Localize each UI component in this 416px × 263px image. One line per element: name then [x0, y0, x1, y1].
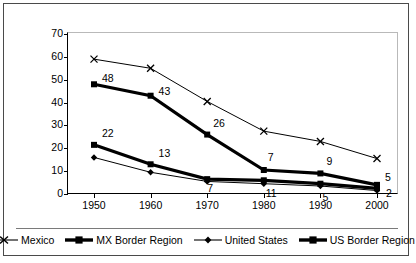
x-axis-tick-mark [377, 194, 378, 198]
legend-label: Mexico [21, 234, 64, 246]
y-axis-tick-mark [64, 34, 68, 35]
series-lines [68, 33, 399, 195]
x-axis-tick-mark [320, 194, 321, 198]
x-axis-tick-label: 1950 [64, 199, 124, 211]
x-axis-tick-label: 1970 [177, 199, 237, 211]
data-point-marker [317, 170, 323, 176]
data-point-marker [261, 177, 267, 183]
data-point-label: 5 [385, 171, 391, 183]
y-axis-tick-label: 30 [37, 118, 63, 130]
data-point-label: 5 [322, 191, 328, 203]
y-axis-tick-mark [64, 103, 68, 104]
x-axis-tick-label: 1960 [121, 199, 181, 211]
data-point-marker [91, 154, 97, 160]
y-axis-tick-mark [64, 80, 68, 81]
y-axis-tick-mark [64, 57, 68, 58]
y-axis-tick-label: 70 [37, 27, 63, 39]
legend-item-mx-border-region[interactable]: MX Border Region [64, 234, 192, 246]
x-axis-tick-mark [207, 194, 208, 198]
legend-item-mexico[interactable]: Mexico [0, 234, 64, 246]
data-point-marker [91, 142, 97, 148]
series-line-mexico [94, 59, 377, 158]
series-line-mx-border-region [94, 84, 377, 185]
y-axis-tick-label: 50 [37, 73, 63, 85]
data-point-label: 7 [207, 182, 213, 194]
legend-label: United States [225, 234, 298, 246]
plot-area: 010203040506070 195019601970198019902000… [67, 32, 398, 194]
data-point-label: 13 [159, 147, 171, 159]
x-axis-tick-label: 1990 [290, 199, 350, 211]
data-point-marker [261, 167, 267, 173]
square-marker [64, 234, 94, 246]
y-axis-tick-mark [64, 194, 68, 195]
x-axis-tick-mark [94, 194, 95, 198]
y-axis-tick-label: 40 [37, 96, 63, 108]
data-point-label: 22 [102, 127, 114, 139]
x-axis-tick-mark [264, 194, 265, 198]
data-point-marker [148, 93, 154, 99]
data-point-label: 7 [268, 151, 274, 163]
data-point-marker [204, 132, 210, 138]
legend-item-united-states[interactable]: United States [193, 234, 298, 246]
x-marker [0, 234, 19, 246]
x-axis-tick-mark [151, 194, 152, 198]
data-point-label: 2 [386, 187, 392, 199]
y-axis-tick-label: 20 [37, 141, 63, 153]
data-point-label: 43 [159, 85, 171, 97]
data-point-marker [374, 155, 381, 162]
x-axis-tick-label: 2000 [347, 199, 407, 211]
y-axis-tick-label: 10 [37, 164, 63, 176]
data-point-label: 26 [213, 117, 225, 129]
data-point-marker [374, 185, 380, 191]
y-axis-tick-mark [64, 171, 68, 172]
chart-legend: MexicoMX Border RegionUnited StatesUS Bo… [16, 228, 398, 251]
diamond-marker [193, 234, 223, 246]
legend-item-us-border-region[interactable]: US Border Region [298, 234, 416, 246]
y-axis-tick-label: 60 [37, 50, 63, 62]
square-marker [298, 234, 328, 246]
y-axis-tick-mark [64, 125, 68, 126]
y-axis-tick-label: 0 [37, 187, 63, 199]
data-point-marker [91, 81, 97, 87]
x-axis-tick-label: 1980 [234, 199, 294, 211]
chart-frame: Percent of Labor Force 010203040506070 1… [3, 3, 409, 256]
data-point-marker [204, 98, 211, 105]
y-axis-tick-mark [64, 148, 68, 149]
legend-label: MX Border Region [96, 234, 192, 246]
data-point-marker [317, 181, 323, 187]
data-point-label: 11 [266, 187, 277, 199]
data-point-marker [148, 161, 154, 167]
data-point-label: 9 [326, 155, 332, 167]
legend-label: US Border Region [330, 234, 416, 246]
data-point-label: 48 [102, 72, 114, 84]
data-point-marker [147, 169, 153, 175]
